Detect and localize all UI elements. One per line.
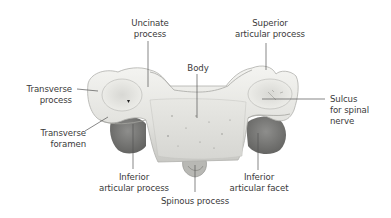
inferior-articular-facet-right xyxy=(246,117,286,155)
label-body: Body xyxy=(184,63,212,74)
label-superior-articular-process: Superior articular process xyxy=(230,18,310,40)
label-transverse-process: Transverse process xyxy=(14,84,72,106)
label-spinous-process: Spinous process xyxy=(150,196,240,207)
vertebra-diagram: Uncinate process Superior articular proc… xyxy=(0,0,391,218)
label-inferior-articular-process: Inferior articular process xyxy=(94,172,174,194)
label-transverse-foramen: Transverse foramen xyxy=(24,128,86,150)
spinous-process-shape xyxy=(183,160,207,177)
label-inferior-articular-facet: Inferior articular facet xyxy=(222,172,296,194)
label-sulcus-for-spinal-nerve: Sulcus for spinal nerve xyxy=(330,94,388,127)
leader-transverse-foramen xyxy=(85,117,108,131)
label-uncinate-process: Uncinate process xyxy=(122,18,178,40)
